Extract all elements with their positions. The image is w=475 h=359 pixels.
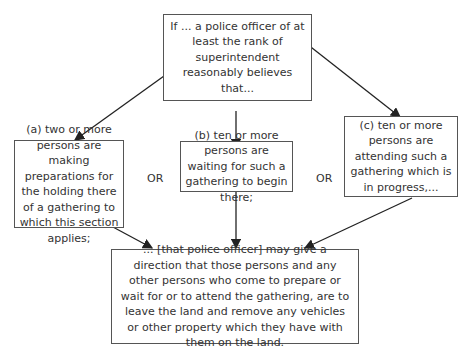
condition-a-box: (a) two or more persons are making prepa… <box>14 140 124 228</box>
premise-text: If ... a police officer of at least the … <box>168 19 307 97</box>
result-text: ... [that police officer] may give a dir… <box>118 242 352 351</box>
or-label-1: OR <box>147 172 163 185</box>
premise-box: If ... a police officer of at least the … <box>163 14 312 101</box>
condition-c-box: (c) ten or more persons are attending su… <box>344 116 458 197</box>
condition-a-text: (a) two or more persons are making prepa… <box>19 122 119 246</box>
result-box: ... [that police officer] may give a dir… <box>111 249 359 344</box>
or-label-2: OR <box>316 172 332 185</box>
condition-c-text: (c) ten or more persons are attending su… <box>349 118 453 196</box>
condition-b-text: (b) ten or more persons are waiting for … <box>185 128 288 206</box>
condition-b-box: (b) ten or more persons are waiting for … <box>180 141 293 192</box>
